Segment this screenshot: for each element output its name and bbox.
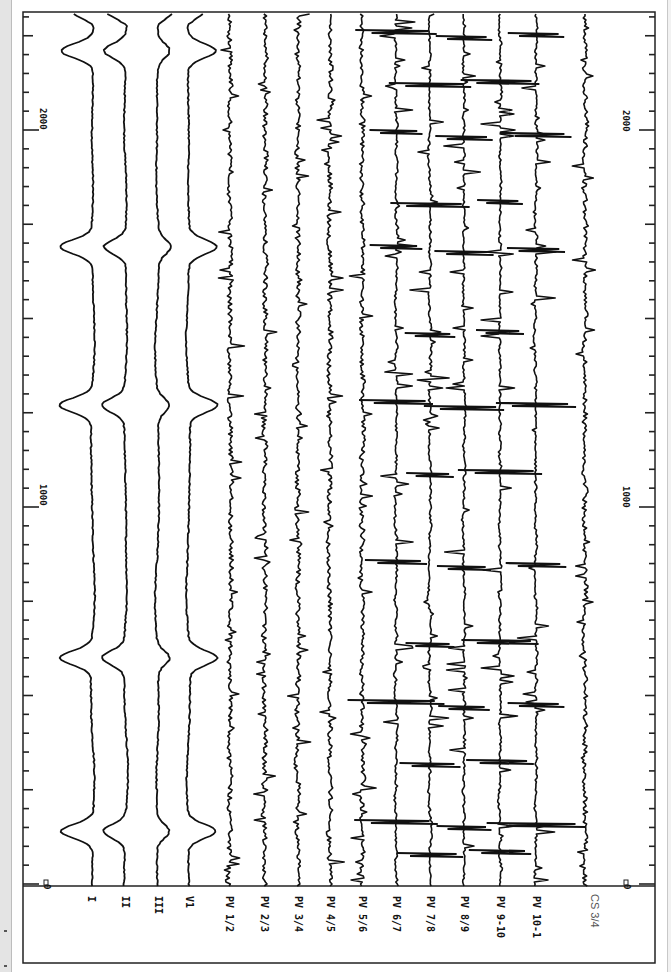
trace-pv-4-5 bbox=[317, 14, 344, 886]
channel-label-CS34: CS 3/4 bbox=[589, 894, 601, 928]
channel-label-III: III bbox=[153, 896, 164, 914]
channel-traces bbox=[60, 14, 596, 886]
trace-i bbox=[60, 14, 96, 886]
trace-pv-3-4 bbox=[288, 14, 311, 886]
trace-pv-2-3 bbox=[254, 14, 277, 886]
channel-label-PV78: PV 7/8 bbox=[425, 896, 436, 932]
channel-label-I: I bbox=[86, 896, 97, 902]
trace-pv-7-8 bbox=[410, 14, 449, 886]
channel-label-PV45: PV 4/5 bbox=[325, 896, 336, 932]
trace-pv-5-6 bbox=[350, 14, 377, 886]
channel-label-PV23: PV 2/3 bbox=[259, 896, 270, 932]
left-axis-label-2000: 2000 bbox=[38, 108, 48, 130]
trace-ii bbox=[102, 14, 128, 886]
trace-pv-10-1 bbox=[518, 14, 556, 886]
right-axis-label-1000: 1000 bbox=[621, 486, 631, 508]
channel-label-PV56: PV 5/6 bbox=[357, 896, 368, 932]
trace-pv-1-2 bbox=[219, 14, 245, 886]
channel-label-II: II bbox=[120, 896, 131, 908]
right-time-axis bbox=[639, 17, 655, 884]
right-axis-label-2000: 2000 bbox=[621, 110, 631, 132]
trace-pv-8-9 bbox=[444, 14, 480, 886]
channel-label-PV67: PV 6/7 bbox=[391, 896, 402, 932]
channel-label-PV12: PV 1/2 bbox=[224, 896, 235, 932]
trace-v1 bbox=[186, 14, 218, 886]
trace-cs-3-4 bbox=[572, 14, 595, 886]
trace-pv-6-7 bbox=[380, 14, 415, 886]
trace-iii bbox=[155, 14, 172, 886]
channel-label-PV101: PV 10-1 bbox=[531, 896, 542, 938]
electrogram-chart: 0 1000 2000 0 1000 2000 I II III V1 PV 1… bbox=[0, 0, 671, 972]
channel-label-V1: V1 bbox=[184, 896, 195, 908]
chart-frame bbox=[23, 12, 655, 963]
channel-label-PV910: PV 9-10 bbox=[495, 896, 506, 938]
channel-label-PV34: PV 3/4 bbox=[293, 896, 304, 932]
left-axis-label-1000: 1000 bbox=[38, 484, 48, 506]
left-time-axis bbox=[23, 17, 39, 884]
channel-label-PV89: PV 8/9 bbox=[459, 896, 470, 932]
trace-pv-9-10 bbox=[481, 14, 517, 886]
